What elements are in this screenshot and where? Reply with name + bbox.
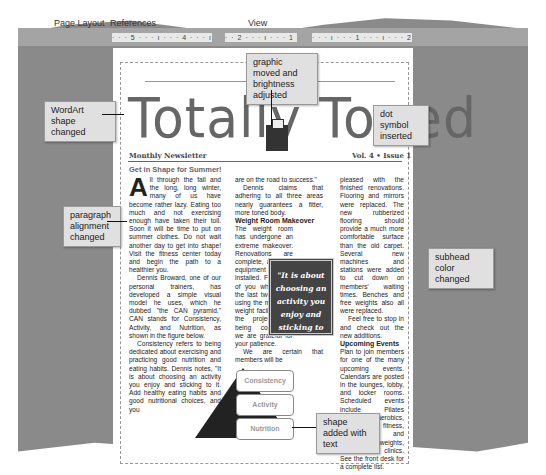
- masthead-left: Monthly Newsletter: [129, 151, 207, 160]
- callout-graphic: graphic moved and brightness adjusted: [246, 53, 318, 105]
- ruler-left[interactable]: · · · 5 · · · ı · · · 4 · · · ı · · · 3 …: [112, 33, 212, 42]
- subhead-weight-room: Weight Room Makeover: [235, 217, 323, 225]
- callout-dot-symbol: dot symbol inserted: [373, 105, 429, 146]
- callout-shape: shape added with text: [316, 413, 380, 454]
- menu-references[interactable]: References: [110, 18, 156, 28]
- pyramid-consistency[interactable]: Consistency: [236, 370, 294, 392]
- ruler-right[interactable]: · · · ı · · · 1 · · · ı · · · 2 · · · ı: [312, 33, 412, 42]
- callout-paragraph: paragraph alignment changed: [63, 206, 121, 247]
- callout-wordart: WordArt shape changed: [44, 101, 116, 142]
- ruler-middle[interactable]: · · 2 · · · ı · · · 1 · · · ı: [225, 33, 297, 42]
- pyramid-activity[interactable]: Activity: [236, 394, 294, 416]
- drop-cap: A: [129, 176, 148, 198]
- pyramid-nutrition[interactable]: Nutrition: [236, 418, 294, 440]
- masthead-rule: [128, 161, 402, 162]
- menu-page-layout[interactable]: Page Layout: [54, 18, 105, 28]
- arrow-graphic: [271, 90, 272, 126]
- menu-view[interactable]: View: [248, 18, 267, 28]
- subhead-upcoming-events: Upcoming Events: [340, 340, 404, 348]
- fitness-graphic-icon[interactable]: [266, 125, 288, 151]
- arrow-wordart: [102, 114, 124, 115]
- masthead-right: Vol. 4 • Issue 1: [352, 151, 411, 160]
- arrow-paragraph: [107, 221, 127, 222]
- arrow-shape: [292, 427, 316, 428]
- pull-quote[interactable]: "It is about choosing an activity you en…: [268, 258, 334, 336]
- callout-subhead: subhead color changed: [428, 248, 494, 289]
